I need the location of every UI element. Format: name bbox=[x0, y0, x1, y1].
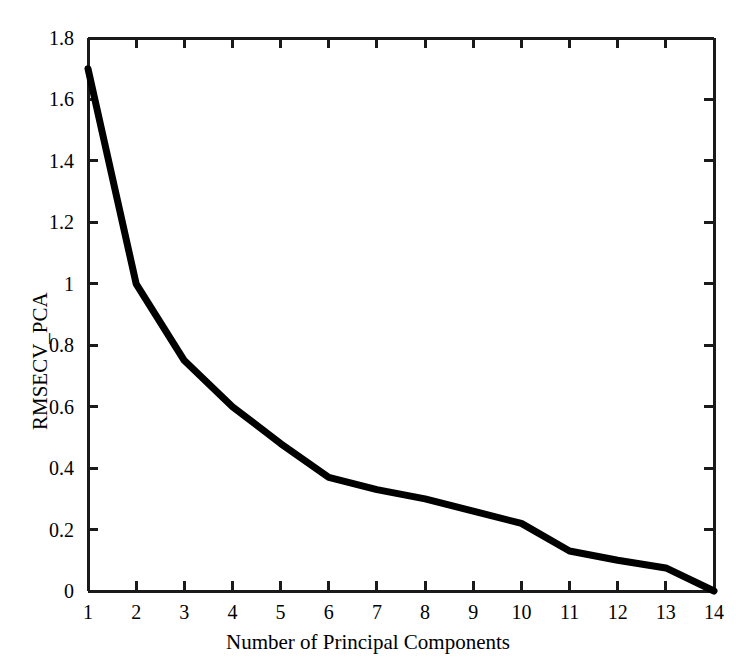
y-tick-label: 1.4 bbox=[0, 149, 74, 172]
x-tick-label: 4 bbox=[227, 601, 237, 624]
x-tick-label: 5 bbox=[276, 601, 286, 624]
x-tick-label: 12 bbox=[608, 601, 628, 624]
y-tick-label: 0.2 bbox=[0, 518, 74, 541]
data-series-line bbox=[88, 69, 714, 591]
y-tick-label: 1.2 bbox=[0, 211, 74, 234]
x-tick-label: 3 bbox=[179, 601, 189, 624]
axes-frame bbox=[88, 38, 714, 591]
y-tick-label: 0 bbox=[0, 580, 74, 603]
x-tick-label: 13 bbox=[656, 601, 676, 624]
chart-page: RMSECV_PCA Number of Principal Component… bbox=[0, 0, 736, 664]
x-axis-title: Number of Principal Components bbox=[0, 630, 736, 655]
x-tick-label: 9 bbox=[468, 601, 478, 624]
x-tick-label: 6 bbox=[324, 601, 334, 624]
x-tick-label: 8 bbox=[420, 601, 430, 624]
rmsecv-pca-line-chart: RMSECV_PCA Number of Principal Component… bbox=[0, 0, 736, 664]
tick-marks bbox=[88, 38, 714, 591]
y-tick-label: 1 bbox=[0, 272, 74, 295]
x-tick-label: 1 bbox=[83, 601, 93, 624]
x-tick-label: 14 bbox=[704, 601, 724, 624]
plot-canvas bbox=[0, 0, 736, 664]
x-tick-label: 7 bbox=[372, 601, 382, 624]
series-line-rmsecv-pca bbox=[88, 69, 714, 591]
y-tick-label: 0.6 bbox=[0, 395, 74, 418]
y-tick-label: 0.4 bbox=[0, 457, 74, 480]
y-tick-label: 1.8 bbox=[0, 27, 74, 50]
y-tick-label: 1.6 bbox=[0, 88, 74, 111]
x-tick-label: 11 bbox=[560, 601, 579, 624]
x-tick-label: 2 bbox=[131, 601, 141, 624]
x-tick-label: 10 bbox=[511, 601, 531, 624]
y-tick-label: 0.8 bbox=[0, 334, 74, 357]
